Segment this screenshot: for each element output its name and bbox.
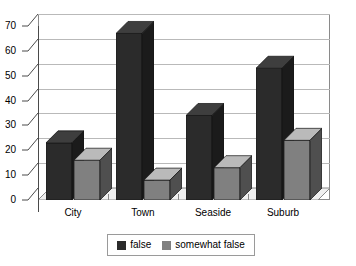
- legend-item-somewhat-false[interactable]: somewhat false: [162, 240, 244, 250]
- y-axis: 010203040506070: [0, 0, 38, 266]
- plot-area: [38, 14, 330, 200]
- x-axis-label-seaside: Seaside: [178, 207, 248, 218]
- x-tick-1: [108, 194, 109, 200]
- y-tick-mark-60: [22, 37, 38, 53]
- legend-label-false: false: [130, 240, 151, 250]
- y-tick-label-70: 70: [5, 21, 16, 31]
- legend-label-somewhat-false: somewhat false: [175, 240, 244, 250]
- x-tick-2: [178, 194, 179, 200]
- legend-item-false[interactable]: false: [117, 240, 151, 250]
- y-tick-mark-10: [22, 161, 38, 177]
- y-tick-mark-0: [22, 186, 38, 202]
- y-tick-label-40: 40: [5, 96, 16, 106]
- y-tick-label-0: 0: [10, 195, 16, 205]
- y-tick-label-50: 50: [5, 71, 16, 81]
- bar-chart: 010203040506070 CityTownSeasideSuburb fa…: [0, 0, 356, 266]
- x-axis-label-town: Town: [108, 207, 178, 218]
- x-axis-label-suburb: Suburb: [248, 207, 318, 218]
- x-tick-3: [248, 194, 249, 200]
- y-tick-label-60: 60: [5, 46, 16, 56]
- legend: false somewhat false: [107, 234, 255, 256]
- y-tick-mark-20: [22, 136, 38, 152]
- y-tick-mark-40: [22, 87, 38, 103]
- x-tick-marks: [38, 14, 330, 200]
- y-tick-label-20: 20: [5, 145, 16, 155]
- y-tick-mark-50: [22, 62, 38, 78]
- y-tick-mark-70: [22, 12, 38, 28]
- y-axis-line-front: [38, 26, 39, 212]
- y-tick-mark-30: [22, 111, 38, 127]
- y-tick-label-30: 30: [5, 120, 16, 130]
- legend-swatch-somewhat-false: [162, 241, 171, 250]
- y-tick-label-10: 10: [5, 170, 16, 180]
- x-axis-label-city: City: [38, 207, 108, 218]
- legend-swatch-false: [117, 241, 126, 250]
